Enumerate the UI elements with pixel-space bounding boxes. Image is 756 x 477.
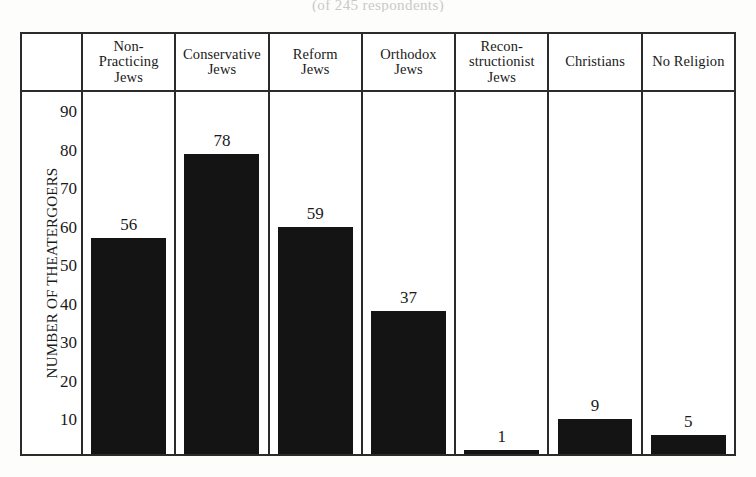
category-header-line: Reform [293,47,338,63]
category-header-line: structionist [469,54,535,70]
category-header-line: No Religion [652,54,724,70]
y-axis-tick-40: 40 [60,295,77,312]
bar-reform-jews[interactable] [278,227,353,454]
bar-column-no-religion: 5 [643,92,734,454]
y-axis-tick-20: 20 [60,372,77,389]
y-axis-tick-70: 70 [60,180,77,197]
category-header-line: Non- [99,39,159,55]
category-header-line: Jews [183,62,261,78]
category-header-christians: Christians [549,34,642,90]
category-header-line: Christians [565,54,625,70]
category-header-orthodox-jews: Orthodox Jews [363,34,456,90]
bar-value-label-reform-jews: 59 [270,205,361,222]
bar-conservative-jews[interactable] [184,154,259,455]
header-corner-cell [22,34,83,90]
bar-orthodox-jews[interactable] [371,311,446,454]
chart-frame: Non- Practicing Jews Conservative Jews R… [20,32,736,456]
category-header-reconstructionist-jews: Recon- structionist Jews [456,34,549,90]
bar-chart-figure: (of 245 respondents) Non- Practicing Jew… [0,0,756,477]
category-header-line: Jews [293,62,338,78]
bar-value-label-no-religion: 5 [643,413,734,430]
bar-column-reform-jews: 59 [270,92,363,454]
bar-value-label-recon-structionist-jews: 1 [456,428,547,445]
y-axis-tick-90: 90 [60,103,77,120]
bar-recon-structionist-jews[interactable] [464,450,539,454]
chart-subtitle-remnant: (of 245 respondents) [0,0,756,12]
category-header-line: Orthodox [380,47,436,63]
category-header-cells: Non- Practicing Jews Conservative Jews R… [83,34,734,90]
bar-non-practicing-jews[interactable] [91,238,166,454]
y-axis-tick-80: 80 [60,141,77,158]
category-header-line: Jews [380,62,436,78]
bar-column-non-practicing-jews: 56 [83,92,176,454]
bar-christians[interactable] [558,419,633,454]
category-header-conservative-jews: Conservative Jews [176,34,269,90]
bar-column-conservative-jews: 78 [176,92,269,454]
category-header-line: Practicing [99,54,159,70]
category-header-line: Jews [469,70,535,86]
y-axis-tick-50: 50 [60,257,77,274]
category-header-line: Conservative [183,47,261,63]
y-axis-tick-60: 60 [60,218,77,235]
plot-area: NUMBER OF THEATERGOERS 10203040506070809… [22,92,734,454]
bar-columns: 56785937195 [83,92,734,454]
category-header-reform-jews: Reform Jews [270,34,363,90]
bar-value-label-conservative-jews: 78 [176,132,267,149]
category-header-line: Recon- [469,39,535,55]
y-axis-label: NUMBER OF THEATERGOERS [44,143,61,403]
y-axis: NUMBER OF THEATERGOERS 10203040506070809… [22,92,83,454]
bar-column-christians: 9 [549,92,642,454]
y-axis-tick-10: 10 [60,411,77,428]
y-axis-tick-30: 30 [60,334,77,351]
category-header-no-religion: No Religion [643,34,734,90]
category-header-non-practicing-jews: Non- Practicing Jews [83,34,176,90]
bar-column-orthodox-jews: 37 [363,92,456,454]
bar-value-label-christians: 9 [549,397,640,414]
bar-no-religion[interactable] [651,435,726,454]
bar-column-recon-structionist-jews: 1 [456,92,549,454]
bar-value-label-non-practicing-jews: 56 [83,216,174,233]
bar-value-label-orthodox-jews: 37 [363,289,454,306]
category-header-line: Jews [99,70,159,86]
category-header-row: Non- Practicing Jews Conservative Jews R… [22,34,734,92]
